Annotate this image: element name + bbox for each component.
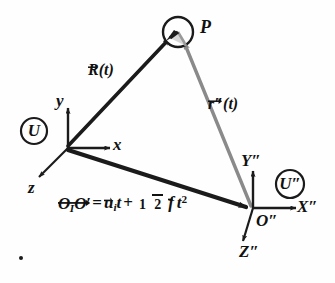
vector-R-arg: (t) (99, 61, 114, 78)
displacement-equation: OIO′ = u it + 1 2 (58, 192, 187, 214)
frame-U-badge-label: U (21, 118, 47, 144)
axis-y-label: y (56, 92, 64, 109)
equation-u-letter: u (104, 193, 113, 213)
fraction-numerator: 1 (137, 197, 148, 213)
equation-term-f: f t2 (168, 193, 187, 213)
frame-U-axes (39, 108, 110, 177)
equation-lhs: OIO′ (58, 192, 90, 214)
axis-Ypp-label: Y″ (241, 152, 261, 169)
frame-Upp-badge-label: U″ (276, 171, 304, 197)
fraction-denominator: 2 (152, 194, 163, 212)
axis-x-label: x (113, 136, 122, 153)
equation-equals: = (90, 193, 104, 213)
axis-Zpp-label: Z″ (239, 243, 259, 260)
vector-rpp-line (184, 42, 251, 206)
vector-u-symbol: u (104, 193, 113, 213)
diagram-canvas (0, 0, 335, 283)
point-P-label: P (200, 18, 211, 36)
vector-rpp-base: r″ (208, 96, 223, 112)
axis-z-label: z (28, 179, 35, 196)
origin-Opp-label: O″ (256, 212, 278, 229)
axis-z-line (39, 148, 68, 177)
axis-Xpp-label: X″ (297, 198, 318, 215)
equation-plus: + (121, 193, 135, 213)
vector-R-base: R (88, 62, 99, 78)
equation-fraction-half: 1 2 (137, 195, 163, 212)
vector-rpp-arg: (t) (223, 95, 238, 112)
vector-rpp-label: r″ (t) (208, 96, 238, 112)
vector-diagram-figure: P U U″ y x z Y″ X″ Z″ O″ R (t) (0, 0, 335, 283)
equation-lhs-O1: O (58, 194, 70, 213)
vector-R-symbol: R (88, 62, 99, 78)
equation-f-exponent: 2 (182, 193, 188, 205)
vector-f-symbol: f (168, 193, 174, 213)
equation-f-time: t (174, 193, 182, 212)
vector-R-label: R (t) (88, 62, 114, 78)
vector-rpp-symbol: r″ (208, 96, 223, 112)
equation-lhs-O2: O′ (74, 194, 90, 213)
point-P-marker (163, 17, 193, 47)
equation-term-u: u it (104, 193, 121, 213)
axis-Zpp-line (243, 208, 253, 241)
vector-R-line (68, 38, 170, 146)
stray-dot (19, 256, 23, 260)
equation-f-letter: f (168, 193, 174, 213)
